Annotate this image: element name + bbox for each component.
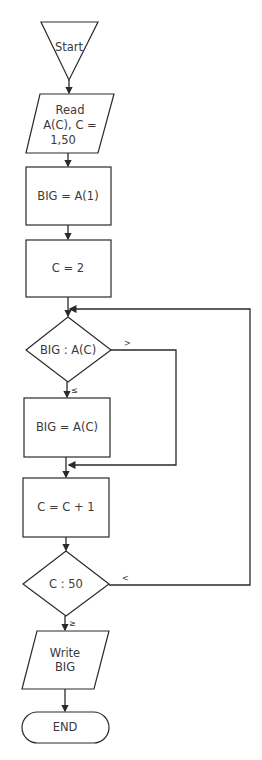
check-end-decision-node: C : 50 — [23, 551, 109, 616]
read-input-node: Read A(C), C = 1,50 — [26, 94, 114, 153]
init-c-label: C = 2 — [52, 261, 84, 275]
read-label-line3: 1,50 — [50, 133, 76, 147]
init-big-node: BIG = A(1) — [26, 167, 111, 225]
write-label-line2: BIG — [55, 660, 75, 674]
check-less-label: < — [122, 574, 129, 583]
check-end-label: C : 50 — [49, 577, 83, 591]
compare-decision-node: BIG : A(C) — [26, 317, 111, 382]
compare-greater-label: > — [124, 339, 131, 348]
write-output-node: Write BIG — [22, 631, 109, 689]
init-c-node: C = 2 — [26, 240, 111, 297]
end-label: END — [53, 720, 78, 734]
init-big-label: BIG = A(1) — [37, 189, 98, 203]
read-label-line2: A(C), C = — [43, 118, 97, 132]
end-terminal-node: END — [22, 712, 109, 743]
start-label: Start — [55, 40, 84, 54]
compare-label: BIG : A(C) — [40, 343, 96, 357]
increment-node: C = C + 1 — [23, 478, 109, 537]
compare-le-label: ≤ — [71, 386, 78, 395]
read-label-line1: Read — [56, 103, 85, 117]
start-node: Start — [41, 22, 98, 80]
assign-big-node: BIG = A(C) — [24, 398, 110, 457]
assign-big-label: BIG = A(C) — [36, 420, 98, 434]
flowchart-canvas: Start Read A(C), C = 1,50 BIG = A(1) C =… — [0, 0, 262, 760]
check-ge-label: ≥ — [69, 619, 76, 628]
write-label-line1: Write — [50, 646, 80, 660]
increment-label: C = C + 1 — [37, 500, 94, 514]
